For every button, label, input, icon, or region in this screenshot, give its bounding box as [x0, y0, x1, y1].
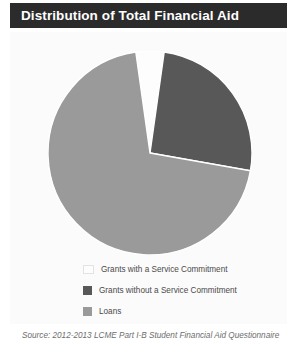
chart-title-bar: Distribution of Total Financial Aid — [10, 3, 287, 28]
pie-chart-svg — [48, 51, 252, 255]
chart-plot-area: Grants with a Service Commitment Grants … — [10, 32, 287, 324]
legend-label-grants-with-service: Grants with a Service Commitment — [101, 265, 228, 274]
pie-slice-group — [48, 51, 252, 255]
legend-label-loans: Loans — [99, 307, 121, 316]
legend-item-grants-with-service: Grants with a Service Commitment — [83, 260, 283, 279]
legend-label-grants-without-service: Grants without a Service Commitment — [99, 286, 237, 295]
pie-chart — [48, 51, 252, 255]
page-title: Distribution of Total Financial Aid — [21, 8, 239, 23]
legend-item-loans: Loans — [83, 302, 283, 321]
legend-swatch-grants-without-service — [83, 286, 92, 295]
source-note: Source: 2012-2013 LCME Part I-B Student … — [22, 331, 279, 340]
chart-figure: Distribution of Total Financial Aid Gran… — [0, 0, 297, 360]
legend-item-grants-without-service: Grants without a Service Commitment — [83, 281, 283, 300]
chart-legend: Grants with a Service Commitment Grants … — [83, 260, 283, 323]
pie-slice — [150, 52, 252, 171]
legend-swatch-loans — [83, 307, 92, 316]
legend-swatch-grants-with-service — [83, 265, 94, 274]
